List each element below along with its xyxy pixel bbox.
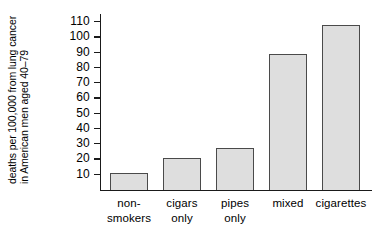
x-label-cigarettes: cigarettes bbox=[312, 196, 370, 211]
x-label-line-0: non- bbox=[100, 196, 158, 211]
y-tick-label-70: 70 bbox=[76, 76, 90, 88]
y-tick-label-90: 90 bbox=[76, 46, 90, 58]
bar-cigars-only bbox=[163, 158, 201, 190]
y-tick-70: 70 bbox=[94, 82, 101, 83]
y-tick-label-60: 60 bbox=[76, 91, 90, 103]
y-tick-100: 100 bbox=[94, 36, 101, 37]
bar-chart: deaths per 100,000 from lung cancer in A… bbox=[0, 0, 377, 251]
x-label-cigars-only: cigarsonly bbox=[153, 196, 211, 225]
x-label-non-smokers: non-smokers bbox=[100, 196, 158, 225]
y-axis-title-line-2: in American men aged 40–79 bbox=[18, 16, 30, 184]
y-tick-110: 110 bbox=[94, 21, 101, 22]
y-tick-80: 80 bbox=[94, 67, 101, 68]
y-tick-60: 60 bbox=[94, 97, 101, 98]
y-tick-90: 90 bbox=[94, 52, 101, 53]
x-label-line-0: cigarettes bbox=[312, 196, 370, 211]
bar-mixed bbox=[269, 54, 307, 190]
y-tick-10: 10 bbox=[94, 174, 101, 175]
x-label-line-0: cigars bbox=[153, 196, 211, 211]
y-tick-label-50: 50 bbox=[76, 107, 90, 119]
x-axis-line bbox=[100, 190, 372, 191]
y-tick-label-40: 40 bbox=[76, 122, 90, 134]
y-tick-40: 40 bbox=[94, 128, 101, 129]
y-tick-label-20: 20 bbox=[76, 152, 90, 164]
y-tick-label-10: 10 bbox=[76, 168, 90, 180]
x-label-line-1: only bbox=[206, 211, 264, 226]
x-label-line-0: mixed bbox=[259, 196, 317, 211]
y-tick-30: 30 bbox=[94, 143, 101, 144]
x-label-line-0: pipes bbox=[206, 196, 264, 211]
y-tick-20: 20 bbox=[94, 158, 101, 159]
x-label-mixed: mixed bbox=[259, 196, 317, 211]
x-label-line-1: only bbox=[153, 211, 211, 226]
y-tick-label-30: 30 bbox=[76, 137, 90, 149]
y-axis-title-line-1: deaths per 100,000 from lung cancer bbox=[6, 16, 18, 184]
y-tick-label-80: 80 bbox=[76, 61, 90, 73]
y-axis-line bbox=[100, 14, 101, 191]
y-tick-label-110: 110 bbox=[70, 15, 90, 27]
y-tick-label-100: 100 bbox=[69, 30, 90, 42]
bar-cigarettes bbox=[322, 25, 360, 190]
y-tick-50: 50 bbox=[94, 113, 101, 114]
x-label-line-1: smokers bbox=[100, 211, 158, 226]
bar-non-smokers bbox=[110, 173, 148, 190]
y-axis-title: deaths per 100,000 from lung cancer in A… bbox=[6, 0, 52, 200]
x-label-pipes-only: pipesonly bbox=[206, 196, 264, 225]
plot-area: 102030405060708090100110 non-smokersciga… bbox=[100, 14, 372, 191]
bar-pipes-only bbox=[216, 148, 254, 189]
